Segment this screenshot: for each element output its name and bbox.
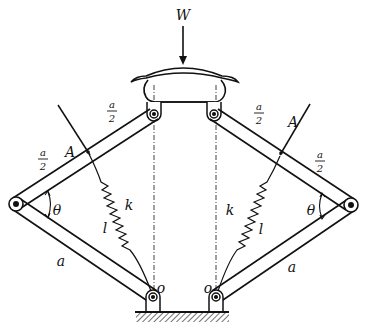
label-spring-k-right: k [226, 202, 234, 218]
elbow-pin-right [344, 198, 358, 212]
platform [131, 68, 238, 102]
label-spring-l-left: l [103, 220, 107, 236]
label-point-a-left: A [63, 144, 75, 160]
svg-text:2: 2 [255, 115, 262, 126]
svg-text:a: a [109, 99, 115, 110]
ground [135, 312, 229, 322]
label-pivot-o-right: o [204, 280, 212, 296]
label-spring-l-right: l [259, 221, 263, 237]
svg-text:a: a [40, 147, 46, 158]
centerlines [154, 85, 216, 312]
svg-text:2: 2 [108, 113, 115, 124]
label-pivot-o-left: o [157, 280, 165, 296]
spring-right [218, 156, 280, 291]
point-a-right-dot [279, 151, 283, 155]
label-bar-a-right: a [288, 259, 296, 275]
label-half-lower-left: a 2 [38, 147, 48, 172]
label-theta-right: θ [307, 202, 316, 218]
point-a-left-dot [86, 150, 90, 154]
label-half-upper-right: a 2 [254, 101, 264, 126]
svg-text:2: 2 [39, 161, 46, 172]
label-half-upper-left: a 2 [107, 99, 117, 124]
label-spring-k-left: k [125, 197, 133, 213]
linkage-diagram: W [0, 0, 371, 333]
reference-lines [58, 104, 310, 155]
label-bar-a-left: a [57, 253, 65, 269]
elbow-pin-left [9, 197, 23, 211]
svg-text:a: a [317, 149, 323, 160]
svg-text:2: 2 [316, 163, 323, 174]
upper-pin-left [147, 102, 161, 121]
load-arrow [179, 26, 187, 65]
links [12, 109, 355, 302]
label-point-a-right: A [286, 114, 298, 130]
svg-text:a: a [256, 101, 262, 112]
load-label: W [176, 7, 192, 23]
label-half-lower-right: a 2 [315, 149, 325, 174]
angle-arc-left [45, 191, 51, 218]
upper-pin-right [207, 102, 221, 121]
label-theta-left: θ [53, 202, 62, 218]
spring-left [89, 154, 151, 291]
